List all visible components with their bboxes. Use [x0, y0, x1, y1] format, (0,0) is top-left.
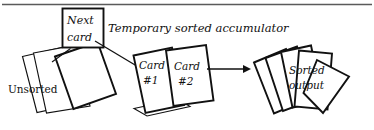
card2-label-line2: #2	[178, 75, 194, 87]
accumulator-caption: Temporary sorted accumulator	[108, 21, 290, 35]
transfer-arrow	[207, 65, 251, 73]
transfer-arrow-head	[243, 65, 251, 73]
sorted-output-label-line1: Sorted	[289, 64, 325, 76]
sorted-output-label-line2: output	[289, 79, 325, 91]
next-card-label-line2: card	[67, 31, 92, 44]
diagram-canvas: Unsorted Next card Temporary sorted accu…	[0, 0, 374, 130]
card1-label-line1: Card	[139, 59, 165, 71]
card2-label-line1: Card	[174, 60, 200, 72]
next-card-label-line1: Next	[66, 14, 94, 27]
card1-label-line2: #1	[143, 74, 158, 86]
insertion-sort-diagram: Unsorted Next card Temporary sorted accu…	[0, 0, 374, 130]
unsorted-label: Unsorted	[8, 83, 58, 95]
unsorted-pile	[23, 42, 117, 113]
